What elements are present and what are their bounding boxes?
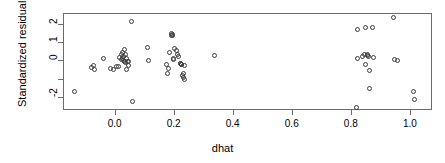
data-point — [182, 63, 187, 68]
data-point — [101, 56, 106, 61]
data-point — [391, 15, 396, 20]
x-tick-label: 0.0 — [95, 119, 135, 129]
data-point — [129, 19, 134, 24]
data-point — [367, 86, 372, 91]
data-point — [167, 50, 172, 55]
data-point — [363, 25, 368, 30]
y-tick-mark — [58, 79, 63, 80]
data-point — [212, 53, 217, 58]
data-point — [170, 33, 175, 38]
x-tick-mark — [351, 110, 352, 115]
x-tick-mark — [115, 110, 116, 115]
data-point — [370, 25, 375, 30]
data-point — [145, 45, 150, 50]
x-tick-label: 1.0 — [390, 119, 430, 129]
y-tick-mark — [58, 24, 63, 25]
x-tick-label: 0.2 — [154, 119, 194, 129]
y-tick-mark — [58, 97, 63, 98]
data-point — [146, 58, 151, 63]
x-tick-label: 0.6 — [272, 119, 312, 129]
data-point — [355, 27, 360, 32]
x-tick-mark — [233, 110, 234, 115]
data-points-layer — [63, 13, 432, 110]
data-point — [130, 99, 135, 104]
data-point — [126, 63, 131, 68]
y-tick-mark — [58, 60, 63, 61]
x-tick-label: 0.4 — [213, 119, 253, 129]
x-tick-label: 0.8 — [331, 119, 371, 129]
data-point — [395, 58, 400, 63]
data-point — [92, 67, 97, 72]
x-tick-mark — [292, 110, 293, 115]
scatter-plot-figure: 210-2 0.00.20.40.60.81.0 Standardized re… — [0, 0, 445, 163]
x-tick-mark — [174, 110, 175, 115]
data-point — [124, 67, 129, 72]
data-point — [412, 97, 417, 102]
y-axis-title: Standardized residuals — [16, 0, 28, 107]
data-point — [182, 77, 187, 82]
data-point — [411, 89, 416, 94]
x-axis-title: dhat — [0, 142, 445, 154]
data-point — [72, 89, 77, 94]
y-tick-mark — [58, 42, 63, 43]
data-point — [367, 68, 372, 73]
x-tick-mark — [410, 110, 411, 115]
data-point — [363, 62, 368, 67]
data-point — [176, 54, 181, 59]
data-point — [354, 105, 359, 110]
data-point — [165, 71, 170, 76]
data-point — [116, 64, 121, 69]
data-point — [166, 66, 171, 71]
data-point — [371, 55, 376, 60]
